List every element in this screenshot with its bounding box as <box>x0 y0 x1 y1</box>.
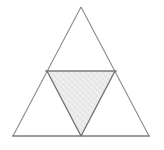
triangle-diagram <box>0 0 164 150</box>
figure-canvas <box>0 0 164 150</box>
